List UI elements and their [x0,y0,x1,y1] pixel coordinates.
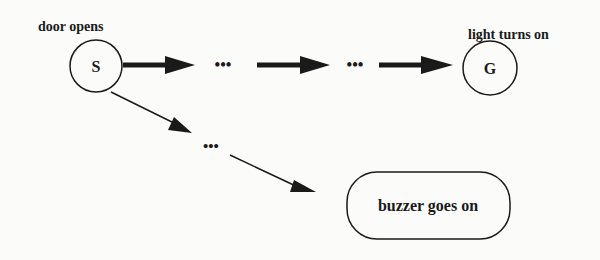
branch-arrow-1 [111,92,180,126]
arrowhead-1-icon [165,56,195,74]
state-transition-diagram: door opens S ••• ••• light turns on G ••… [0,0,600,260]
top-chain: ••• ••• [123,56,453,74]
start-label: S [92,58,101,75]
goal-caption: light turns on [468,27,549,42]
arrowhead-2-icon [300,56,330,74]
ellipsis-top-1: ••• [215,56,232,73]
buzzer-label: buzzer goes on [378,197,478,215]
arrowhead-3-icon [421,56,453,74]
branch-chain: ••• [111,92,316,192]
goal-label: G [484,60,497,77]
branch-arrow-2 [230,155,300,188]
buzzer-node: buzzer goes on [347,172,510,239]
branch-arrowhead-2-icon [290,180,316,192]
start-caption: door opens [38,19,104,34]
branch-arrowhead-1-icon [168,117,192,133]
start-node: door opens S [38,19,122,92]
ellipsis-branch: ••• [203,138,219,154]
ellipsis-top-2: ••• [347,56,364,73]
goal-node: light turns on G [463,27,549,95]
